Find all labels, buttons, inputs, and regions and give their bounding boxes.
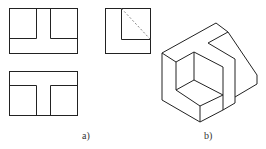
label-b: b) bbox=[204, 130, 212, 141]
side-view bbox=[106, 9, 151, 54]
front-view bbox=[10, 9, 78, 54]
isometric-view bbox=[162, 23, 257, 122]
top-view bbox=[10, 72, 78, 116]
label-a: a) bbox=[82, 130, 90, 141]
drawing-canvas bbox=[0, 0, 266, 149]
